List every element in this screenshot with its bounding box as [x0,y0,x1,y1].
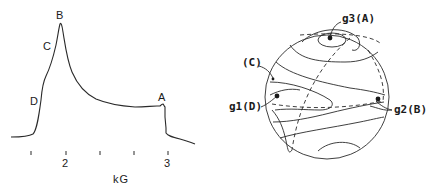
g3-point [328,36,333,41]
spectrum-curve [11,23,195,144]
c-point [272,78,275,81]
g2-point [376,97,381,102]
label-g3: g3(A) [342,12,375,25]
x-axis-label: kG [113,173,129,185]
x-axis-ticks [31,151,168,155]
epr-spectrum-plot: B C D A 2 3 kG [0,0,220,190]
sphere-outline [265,35,389,159]
peak-label-b: B [56,9,63,21]
dashed-axes [272,34,383,150]
peak-label-c: C [43,40,51,52]
label-g2: g2(B) [394,103,427,116]
label-c: (C) [242,56,262,69]
epr-spectrum-panel: B C D A 2 3 kG [0,0,220,190]
peak-label-d: D [30,95,38,107]
contour-lines [270,30,385,152]
label-g1: g1(D) [229,100,262,113]
g1-arrow-icon [261,97,276,107]
g-tensor-sphere: g3(A) (C) g1(D) g2(B) [220,0,441,190]
peak-label-a: A [158,91,166,103]
x-tick-label-3: 3 [164,157,170,169]
g-tensor-sphere-panel: g3(A) (C) g1(D) g2(B) [220,0,441,190]
x-tick-label-2: 2 [62,157,68,169]
